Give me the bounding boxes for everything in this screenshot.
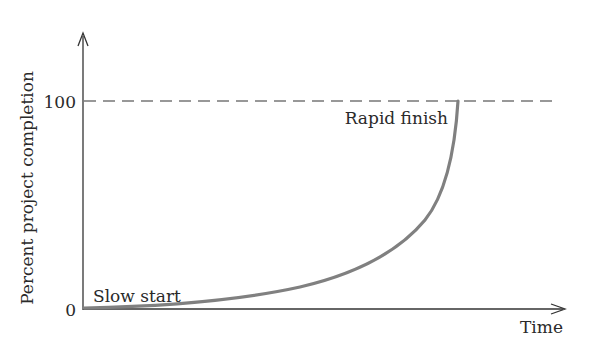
y-tick-100: 100 <box>44 92 76 112</box>
annotation-slow-start: Slow start <box>93 286 181 306</box>
completion-curve <box>84 101 458 308</box>
y-tick-0: 0 <box>65 300 76 320</box>
x-axis-label: Time <box>520 317 563 337</box>
completion-chart: 100 0 Percent project completion Time Sl… <box>0 0 589 354</box>
annotation-rapid-finish: Rapid finish <box>345 108 448 128</box>
y-axis-label: Percent project completion <box>17 71 37 305</box>
